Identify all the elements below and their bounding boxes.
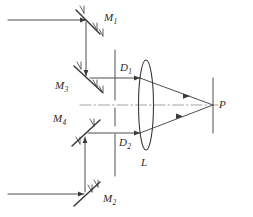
label-mirror-1: M1 <box>104 12 117 26</box>
optical-ray-diagram: M1 M2 M3 M4 D1 D2 L P <box>0 0 253 217</box>
ray-lower-to-p <box>140 105 213 133</box>
diagram-canvas <box>0 0 253 217</box>
label-mirror-2: M2 <box>103 193 116 207</box>
label-mirror-3: M3 <box>55 80 68 94</box>
label-aperture-2: D2 <box>119 137 131 151</box>
ray-upper-arrowhead <box>183 94 190 99</box>
ray-upper-to-p <box>140 78 213 105</box>
mirror-m1-hatching <box>80 6 103 36</box>
mirror-m3-face <box>74 66 102 92</box>
label-mirror-4: M4 <box>53 113 66 127</box>
label-aperture-1: D1 <box>120 62 132 76</box>
label-point-p: P <box>219 99 226 110</box>
mirror-m1-face <box>76 10 100 34</box>
label-lens: L <box>141 157 147 168</box>
